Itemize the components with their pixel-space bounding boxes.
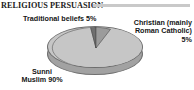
figure-header: RELIGIOUS PERSUASION [0, 0, 194, 12]
title-divider-rule [93, 4, 190, 7]
pie-label-sunni-muslim: SunniMuslim 90% [14, 68, 70, 85]
sunni-label-line-2: Muslim 90% [21, 75, 62, 84]
pie-label-traditional-beliefs: Traditional beliefs 5% [23, 15, 97, 23]
chart-figure: RELIGIOUS PERSUASION Traditional beliefs… [0, 0, 194, 90]
page-title: RELIGIOUS PERSUASION [1, 0, 103, 11]
christian-label-line-3: 5% [182, 35, 192, 44]
pie-label-christian: Christian (mainlyRoman Catholic)5% [118, 19, 192, 44]
